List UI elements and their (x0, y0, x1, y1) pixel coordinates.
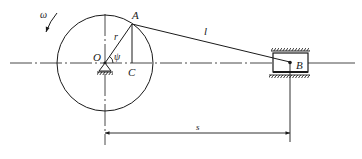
label-a: A (131, 9, 139, 21)
crank-slider-diagram: ω A r O ψ C l B s (0, 0, 362, 159)
label-omega: ω (40, 9, 47, 20)
label-o: O (93, 51, 101, 63)
omega-rotation-arrow-icon (46, 13, 57, 32)
label-s: s (196, 122, 200, 132)
label-l: l (204, 25, 207, 37)
label-b: B (296, 59, 303, 71)
connecting-rod-l (132, 24, 290, 62)
fixed-pivot-support (97, 61, 113, 75)
label-psi: ψ (114, 51, 121, 62)
angle-psi-arc (110, 56, 113, 63)
label-r: r (114, 31, 118, 42)
label-c: C (128, 66, 136, 78)
